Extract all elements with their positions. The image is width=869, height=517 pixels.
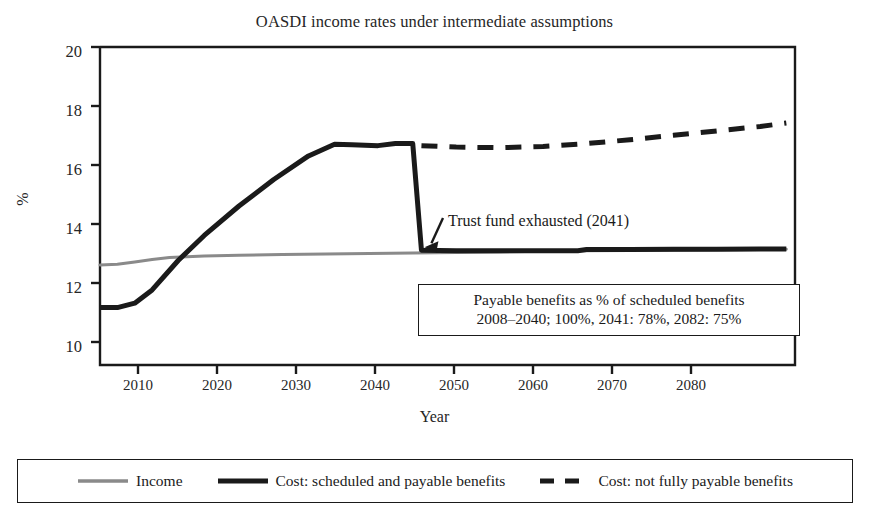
annotation-trust-fund-exhausted: Trust fund exhausted (2041) xyxy=(448,212,629,230)
y-axis-ticks xyxy=(91,47,100,342)
legend-label-cost-scheduled-payable: Cost: scheduled and payable benefits xyxy=(276,472,506,490)
chart-figure: OASDI income rates under intermediate as… xyxy=(0,0,869,517)
note-box: Payable benefits as % of scheduled benef… xyxy=(418,284,800,336)
legend-item-income[interactable]: Income xyxy=(77,472,182,490)
note-box-line-2: 2008–2040; 100%, 2041: 78%, 2082: 75% xyxy=(427,310,791,329)
x-axis-ticks xyxy=(138,365,691,374)
legend-item-cost-scheduled-payable[interactable]: Cost: scheduled and payable benefits xyxy=(217,472,506,490)
plot-area xyxy=(0,0,869,517)
series-line-cost-not-fully-payable xyxy=(421,123,786,148)
note-box-line-1: Payable benefits as % of scheduled benef… xyxy=(427,291,791,310)
legend-label-income: Income xyxy=(136,472,182,490)
legend-label-cost-not-fully-payable: Cost: not fully payable benefits xyxy=(598,472,793,490)
legend-item-cost-not-fully-payable[interactable]: Cost: not fully payable benefits xyxy=(539,472,793,490)
chart-legend: Income Cost: scheduled and payable benef… xyxy=(17,459,853,503)
annotation-arrow-icon xyxy=(424,218,443,251)
legend-swatch-cost-not-fully-payable xyxy=(539,475,591,487)
legend-swatch-income xyxy=(77,475,129,487)
series-line-cost-scheduled-payable xyxy=(100,144,786,308)
legend-swatch-cost-scheduled-payable xyxy=(217,475,269,487)
